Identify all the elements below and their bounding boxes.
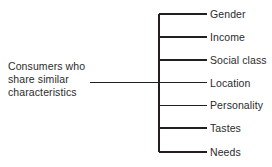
branch-label-location: Location — [210, 77, 251, 89]
branch-label-social-class: Social class — [210, 54, 267, 66]
root-label-line-3: characteristics — [8, 86, 88, 99]
branch-label-tastes: Tastes — [210, 122, 241, 134]
branch-label-income: Income — [210, 31, 245, 43]
root-label-line-2: share similar — [8, 73, 88, 86]
branch-label-needs: Needs — [210, 146, 241, 158]
root-label: Consumers who share similar characterist… — [8, 60, 88, 99]
root-label-line-1: Consumers who — [8, 60, 88, 73]
branch-label-personality: Personality — [210, 99, 263, 111]
branch-label-gender: Gender — [210, 8, 246, 20]
bracket-diagram: Consumers who share similar characterist… — [0, 0, 272, 167]
